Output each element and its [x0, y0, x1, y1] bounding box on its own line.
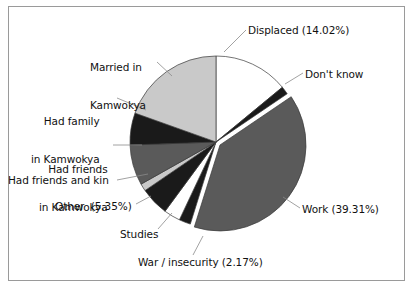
- slice-label-studies: Studies: [120, 228, 158, 241]
- slice-label-work: Work (39.31%): [302, 203, 379, 216]
- leader-line-other: [136, 196, 151, 204]
- slice-label-married-line2: Kamwokya: [90, 99, 146, 112]
- leader-line-studies: [158, 213, 172, 229]
- chart-plot-area: Displaced (14.02%) Don't know Work (39.3…: [0, 0, 414, 292]
- slice-label-war-insecurity: War / insecurity (2.17%): [138, 256, 263, 269]
- slice-label-displaced: Displaced (14.02%): [248, 24, 349, 37]
- slice-label-family-line2: in Kamwokya: [31, 153, 100, 166]
- leader-line-dont-know: [285, 73, 303, 84]
- slice-label-married-in-kamwokya: Married in Kamwokya: [90, 36, 146, 136]
- slice-label-married-line1: Married in: [90, 61, 146, 74]
- slice-label-friends-line2: in Kamwokya: [39, 201, 108, 214]
- pie-chart-figure: Displaced (14.02%) Don't know Work (39.3…: [0, 0, 414, 292]
- pie-slices-group: [130, 56, 306, 231]
- leader-line-displaced: [224, 30, 246, 52]
- leader-line-war: [193, 236, 203, 255]
- slice-label-dont-know: Don't know: [305, 68, 363, 81]
- leader-line-work: [283, 197, 300, 208]
